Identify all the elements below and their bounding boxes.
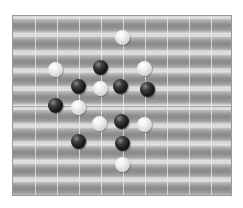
grid-line xyxy=(211,16,212,195)
grid-line xyxy=(189,16,190,195)
black-stone[interactable] xyxy=(114,114,129,129)
grid-line xyxy=(35,16,36,195)
black-stone[interactable] xyxy=(93,60,108,75)
white-stone[interactable] xyxy=(137,61,152,76)
white-stone[interactable] xyxy=(115,30,130,45)
black-stone[interactable] xyxy=(71,134,86,149)
black-stone[interactable] xyxy=(140,82,155,97)
black-stone[interactable] xyxy=(71,79,86,94)
white-stone[interactable] xyxy=(137,117,152,132)
black-stone[interactable] xyxy=(48,98,63,113)
grid-line xyxy=(101,16,102,195)
grid-line xyxy=(167,16,168,195)
white-stone[interactable] xyxy=(92,116,107,131)
board-row xyxy=(13,179,231,196)
board-row xyxy=(13,52,231,70)
black-stone[interactable] xyxy=(113,79,128,94)
white-stone[interactable] xyxy=(93,81,108,96)
black-stone[interactable] xyxy=(115,136,130,151)
white-stone[interactable] xyxy=(71,100,86,115)
grid-line xyxy=(145,16,146,195)
white-stone[interactable] xyxy=(115,157,130,172)
white-stone[interactable] xyxy=(48,62,63,77)
